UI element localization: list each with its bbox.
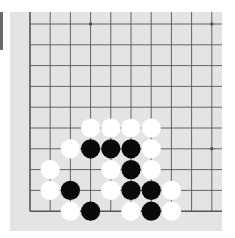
white-stone	[41, 181, 60, 200]
white-stone	[41, 160, 60, 179]
black-stone	[121, 181, 140, 200]
white-stone	[61, 139, 80, 158]
white-stone	[121, 202, 140, 221]
white-stone	[162, 181, 181, 200]
white-stone	[81, 118, 100, 137]
black-stone	[121, 139, 140, 158]
white-stone	[101, 160, 120, 179]
star-point	[210, 22, 214, 26]
grid-lines	[30, 12, 222, 211]
black-stone	[121, 160, 140, 179]
black-stone	[81, 202, 100, 221]
white-stone	[142, 139, 161, 158]
white-stone	[162, 202, 181, 221]
black-stone	[81, 139, 100, 158]
black-stone	[142, 202, 161, 221]
white-stone	[142, 160, 161, 179]
black-stone	[61, 181, 80, 200]
star-point	[89, 22, 93, 26]
white-stone	[121, 118, 140, 137]
white-stone	[61, 202, 80, 221]
white-stone	[101, 118, 120, 137]
star-point	[210, 147, 214, 151]
black-stone	[101, 139, 120, 158]
black-stone	[142, 181, 161, 200]
white-stone	[101, 181, 120, 200]
go-board[interactable]	[0, 0, 235, 238]
white-stone	[142, 118, 161, 137]
